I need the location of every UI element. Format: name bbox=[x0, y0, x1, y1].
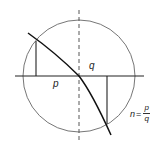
formula-n: n bbox=[130, 109, 135, 119]
formula-numerator: p bbox=[145, 104, 149, 112]
label-p: p bbox=[53, 79, 59, 89]
label-q: q bbox=[89, 61, 95, 71]
formula-equals: = bbox=[136, 109, 141, 119]
refracted-ray bbox=[79, 76, 111, 135]
refraction-diagram bbox=[0, 0, 163, 146]
formula-denominator: q bbox=[145, 115, 149, 123]
formula-fraction: p q bbox=[143, 104, 150, 123]
refractive-index-formula: n = p q bbox=[130, 104, 150, 123]
